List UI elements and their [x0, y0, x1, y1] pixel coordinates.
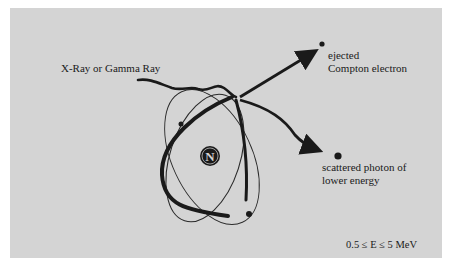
electron-label-line2: Compton electron: [328, 62, 407, 75]
energy-range-label: 0.5 ≤ E ≤ 5 MeV: [346, 238, 417, 251]
electron-dot-orbit-left: [179, 122, 184, 127]
photon-arrow: [240, 100, 318, 150]
photon-label: scattered photon of lower energy: [322, 161, 406, 187]
photon-label-line1: scattered photon of: [322, 161, 406, 174]
orbit-thick: [162, 97, 232, 216]
electron-dot-orbit-bottom: [246, 211, 252, 217]
electron-label-line1: ejected: [328, 49, 407, 62]
incoming-ray-label: X-Ray or Gamma Ray: [61, 62, 160, 75]
atom-diagram: N: [0, 0, 452, 268]
nucleus-label: N: [205, 149, 215, 164]
photon-label-line2: lower energy: [322, 174, 406, 187]
scattered-photon-dot: [334, 152, 341, 159]
ejected-electron-dot: [319, 41, 324, 46]
electron-arrow: [240, 52, 314, 97]
electron-label: ejected Compton electron: [328, 49, 407, 75]
